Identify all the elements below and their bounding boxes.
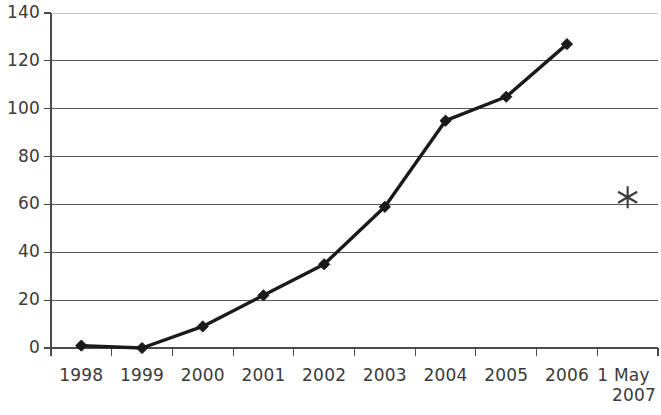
x-axis-tick-label-line1: 2003 bbox=[363, 365, 407, 385]
x-axis-tick-label-line1: 2005 bbox=[484, 365, 528, 385]
x-axis-tick-label-line1: 1999 bbox=[120, 365, 164, 385]
x-axis-tick-label-line1: 1 May bbox=[597, 365, 649, 385]
x-axis-tick-label: 1999 bbox=[112, 365, 173, 385]
x-axis-tick-label-line1: 1998 bbox=[59, 365, 103, 385]
x-axis-tick-label: 1998 bbox=[51, 365, 112, 385]
x-axis-tick-label: 2003 bbox=[355, 365, 416, 385]
y-axis-ticks bbox=[44, 13, 51, 348]
series-markers bbox=[76, 39, 573, 354]
x-axis-tick-label-line1: 2004 bbox=[423, 365, 467, 385]
y-axis-tick-label: 80 bbox=[18, 148, 40, 165]
x-axis-tick-label-line1: 2000 bbox=[181, 365, 225, 385]
x-axis-tick-label: 2004 bbox=[415, 365, 476, 385]
y-axis-tick-label: 100 bbox=[7, 100, 40, 117]
y-axis-tick-label: 20 bbox=[18, 291, 40, 308]
y-axis-tick-label: 60 bbox=[18, 195, 40, 212]
chart-plot-area bbox=[0, 0, 661, 415]
y-axis-tick-label: 0 bbox=[29, 339, 40, 356]
series-line bbox=[81, 44, 567, 348]
x-axis-tick-label: 2000 bbox=[172, 365, 233, 385]
y-axis-tick-label: 120 bbox=[7, 52, 40, 69]
x-axis-tick-label: 2002 bbox=[294, 365, 355, 385]
x-axis-tick-label-line1: 2002 bbox=[302, 365, 346, 385]
x-axis-tick-label: 2001 bbox=[233, 365, 294, 385]
gridlines bbox=[51, 13, 658, 348]
y-axis-tick-label: 140 bbox=[7, 4, 40, 21]
x-axis-tick-label-line2: 2007 bbox=[597, 385, 658, 405]
x-axis-tick-label: 2006 bbox=[537, 365, 598, 385]
x-axis-tick-label-line1: 2006 bbox=[545, 365, 589, 385]
x-axis-tick-label-line1: 2001 bbox=[241, 365, 285, 385]
x-axis-tick-label: 2005 bbox=[476, 365, 537, 385]
line-chart: 020406080100120140 199819992000200120022… bbox=[0, 0, 661, 415]
x-axis-tick-label: 1 May2007 bbox=[597, 365, 658, 405]
y-axis-tick-label: 40 bbox=[18, 243, 40, 260]
